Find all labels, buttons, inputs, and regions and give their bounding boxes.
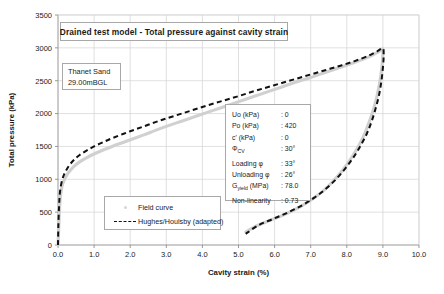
parameter-row: Loading φ: 33° <box>232 158 310 169</box>
chart-title: Drained test model - Total pressure agai… <box>60 27 288 37</box>
legend-item-field-curve: Field curve <box>105 200 220 214</box>
y-tick-label: 1000 <box>35 175 52 184</box>
x-tick-label: 8.0 <box>342 250 352 259</box>
chart-container: 0.01.02.03.04.05.06.07.08.09.010.0050010… <box>0 0 444 294</box>
y-tick-label: 500 <box>39 208 52 217</box>
x-tick-label: 2.0 <box>125 250 135 259</box>
x-tick-label: 1.0 <box>89 250 99 259</box>
parameters-box: Uo (kPa): 0Po (kPa): 420c' (kPa): 0ΦCV: … <box>225 104 311 201</box>
parameter-row: Uo (kPa): 0 <box>232 109 310 120</box>
parameter-value: : 0.73 <box>281 195 298 206</box>
parameter-row: ΦCV: 30° <box>232 143 310 158</box>
parameter-value: : 420 <box>281 120 296 131</box>
legend-label-field-curve: Field curve <box>138 203 173 212</box>
parameter-subscript: yield <box>237 186 247 192</box>
x-tick-label: 0.0 <box>53 250 63 259</box>
legend-label-model-curve: Hughes/Houlsby (adapted) <box>138 217 224 226</box>
parameter-subscript: CV <box>238 148 245 154</box>
y-tick-label: 3500 <box>35 11 52 20</box>
y-tick-label: 2500 <box>35 77 52 86</box>
parameter-key: ΦCV <box>232 143 281 158</box>
x-axis-title: Cavity strain (%) <box>208 268 269 277</box>
parameter-value: : 0 <box>281 109 289 120</box>
parameter-key: c' (kPa) <box>232 132 281 143</box>
y-tick-label: 1500 <box>35 142 52 151</box>
x-tick-label: 4.0 <box>197 250 207 259</box>
parameter-key: Loading φ <box>232 158 281 169</box>
soil-depth: 29.00mBGL <box>68 78 120 89</box>
x-tick-label: 9.0 <box>378 250 388 259</box>
parameter-key: Gyield (MPa) <box>232 180 281 195</box>
soil-name: Thanet Sand <box>68 67 120 78</box>
x-tick-label: 6.0 <box>269 250 279 259</box>
legend-dot-icon <box>112 206 138 209</box>
chart-svg: 0.01.02.03.04.05.06.07.08.09.010.0050010… <box>0 0 444 294</box>
parameter-value: : 30° <box>281 143 295 158</box>
parameter-value: : 0 <box>281 132 289 143</box>
parameter-value: : 33° <box>281 158 295 169</box>
parameter-key: Po (kPa) <box>232 120 281 131</box>
parameter-value: : 26° <box>281 169 295 180</box>
parameter-row: Non-linearity: 0.73 <box>232 195 310 206</box>
y-tick-label: 0 <box>48 241 52 250</box>
legend-dashed-line-icon <box>112 221 138 222</box>
x-tick-label: 10.0 <box>412 250 427 259</box>
x-tick-label: 3.0 <box>161 250 171 259</box>
y-axis-title: Total pressure (kPa) <box>7 92 16 167</box>
parameter-row: Unloading φ: 26° <box>232 169 310 180</box>
parameter-row: Gyield (MPa): 78.0 <box>232 180 310 195</box>
x-tick-label: 5.0 <box>233 250 243 259</box>
soil-annotation-box: Thanet Sand 29.00mBGL <box>62 63 121 90</box>
parameter-value: : 78.0 <box>281 180 298 195</box>
y-tick-label: 3000 <box>35 44 52 53</box>
parameter-row: Po (kPa): 420 <box>232 120 310 131</box>
chart-title-box: Drained test model - Total pressure agai… <box>60 22 288 41</box>
parameter-key: Uo (kPa) <box>232 109 281 120</box>
y-tick-label: 2000 <box>35 109 52 118</box>
x-tick-label: 7.0 <box>305 250 315 259</box>
parameter-key: Unloading φ <box>232 169 281 180</box>
parameter-key: Non-linearity <box>232 195 281 206</box>
chart-legend: Field curve Hughes/Houlsby (adapted) <box>104 196 221 230</box>
legend-item-model-curve: Hughes/Houlsby (adapted) <box>105 214 220 228</box>
parameter-row: c' (kPa): 0 <box>232 132 310 143</box>
